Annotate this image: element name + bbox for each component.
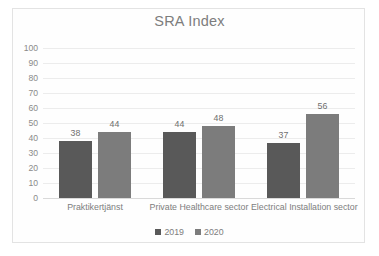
bar-value-label-2019-0: 38 — [59, 129, 92, 138]
chart-legend: 20192020 — [0, 228, 379, 237]
y-tick-label-60: 60 — [0, 104, 38, 113]
bar-value-label-2020-1: 48 — [202, 114, 235, 123]
category-label-0: Praktikertjänst — [43, 203, 147, 212]
bar-2019-0[interactable] — [59, 141, 92, 198]
legend-item-2019[interactable]: 2019 — [155, 228, 184, 237]
y-tick-label-10: 10 — [0, 179, 38, 188]
x-axis-category-labels: PraktikertjänstPrivate Healthcare sector… — [43, 203, 363, 219]
legend-item-2020[interactable]: 2020 — [195, 228, 224, 237]
bar-value-label-2020-0: 44 — [98, 120, 131, 129]
gridline-0 — [43, 198, 355, 199]
y-tick-label-0: 0 — [0, 194, 38, 203]
bar-2019-1[interactable] — [163, 132, 196, 198]
y-tick-label-70: 70 — [0, 89, 38, 98]
y-axis: 1009080706050403020100 — [0, 48, 38, 198]
y-tick-label-40: 40 — [0, 134, 38, 143]
chart-title: SRA Index — [0, 13, 379, 29]
bar-value-label-2019-2: 37 — [267, 131, 300, 140]
legend-swatch-icon-2019 — [155, 229, 161, 235]
bar-value-label-2019-1: 44 — [163, 120, 196, 129]
bar-2020-1[interactable] — [202, 126, 235, 198]
y-tick-label-80: 80 — [0, 74, 38, 83]
y-tick-label-50: 50 — [0, 119, 38, 128]
y-tick-label-20: 20 — [0, 164, 38, 173]
category-label-1: Private Healthcare sector — [147, 203, 251, 212]
legend-label-2020: 2020 — [204, 228, 224, 237]
legend-label-2019: 2019 — [164, 228, 184, 237]
y-tick-label-90: 90 — [0, 59, 38, 68]
bar-value-label-2020-2: 56 — [306, 102, 339, 111]
legend-swatch-icon-2020 — [195, 229, 201, 235]
bars-layer: 384444483756 — [43, 48, 355, 198]
y-tick-label-30: 30 — [0, 149, 38, 158]
bar-2019-2[interactable] — [267, 143, 300, 199]
bar-2020-0[interactable] — [98, 132, 131, 198]
y-tick-label-100: 100 — [0, 44, 38, 53]
category-label-2: Electrical Installation sector — [251, 203, 355, 212]
bar-2020-2[interactable] — [306, 114, 339, 198]
